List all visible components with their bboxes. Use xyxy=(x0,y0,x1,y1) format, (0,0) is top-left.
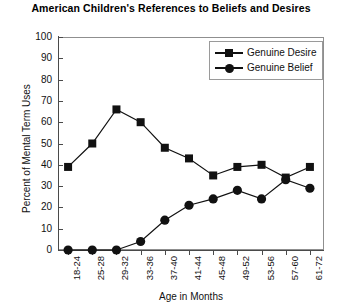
data-point xyxy=(184,201,193,210)
data-point xyxy=(281,175,290,184)
legend-label: Genuine Belief xyxy=(247,62,313,73)
legend-item-genuine-desire: Genuine Desire xyxy=(215,45,316,60)
circle-marker-icon xyxy=(215,62,243,74)
data-point xyxy=(161,144,169,152)
data-point xyxy=(64,163,72,171)
data-point xyxy=(63,245,72,254)
data-point xyxy=(258,161,266,169)
data-point xyxy=(88,140,96,148)
legend-item-genuine-belief: Genuine Belief xyxy=(215,60,316,75)
data-point xyxy=(233,163,241,171)
data-point xyxy=(233,186,242,195)
data-point xyxy=(88,245,97,254)
data-point xyxy=(160,216,169,225)
data-point xyxy=(305,184,314,193)
chart-container: American Children's References to Belief… xyxy=(0,0,342,307)
series-line-genuine-desire xyxy=(68,109,310,177)
series-line-genuine-belief xyxy=(68,180,310,250)
data-point xyxy=(209,194,218,203)
data-point xyxy=(112,105,120,113)
data-point xyxy=(112,245,121,254)
data-point xyxy=(209,171,217,179)
square-marker-icon xyxy=(215,47,243,59)
chart-legend: Genuine Desire Genuine Belief xyxy=(209,41,323,80)
data-point xyxy=(185,154,193,162)
data-point xyxy=(136,237,145,246)
legend-label: Genuine Desire xyxy=(247,47,316,58)
data-point xyxy=(257,194,266,203)
data-point xyxy=(306,163,314,171)
data-point xyxy=(137,118,145,126)
